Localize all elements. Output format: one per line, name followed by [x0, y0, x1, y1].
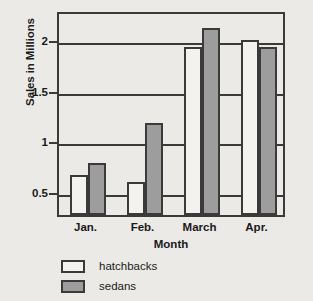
bar-sedans-march — [202, 28, 220, 215]
bar-hatchbacks-march — [184, 47, 202, 215]
y-tick-mark-1 — [49, 142, 57, 144]
bar-hatchbacks-jan — [70, 175, 88, 215]
y-tick-mark-0.5 — [49, 193, 57, 195]
y-tick-label-2: 2 — [8, 36, 48, 48]
legend-swatch-hatchbacks — [61, 260, 85, 273]
x-tick-label-jan: Jan. — [57, 221, 114, 233]
bar-sedans-feb — [145, 123, 163, 215]
y-axis-title: Sales in Millions — [24, 0, 36, 142]
legend-item-hatchbacks: hatchbacks — [61, 256, 157, 276]
x-tick-label-apr: Apr. — [228, 221, 285, 233]
chart-legend: hatchbackssedans — [61, 256, 157, 296]
bar-sedans-apr — [259, 47, 277, 215]
y-tick-label-1: 1 — [8, 137, 48, 149]
bar-sedans-jan — [88, 163, 106, 216]
x-tick-label-march: March — [171, 221, 228, 233]
legend-label-hatchbacks: hatchbacks — [99, 260, 157, 272]
bar-series-container — [59, 14, 283, 215]
x-tick-label-feb: Feb. — [114, 221, 171, 233]
x-axis-title: Month — [57, 238, 285, 250]
plot-area — [57, 12, 285, 217]
legend-item-sedans: sedans — [61, 276, 157, 296]
bar-chart: Sales in Millions 0.511.52 Jan.Feb.March… — [0, 0, 313, 301]
y-tick-mark-2 — [49, 41, 57, 43]
bar-hatchbacks-apr — [241, 40, 259, 215]
y-tick-label-0.5: 0.5 — [8, 188, 48, 200]
legend-label-sedans: sedans — [99, 280, 136, 292]
y-tick-label-1.5: 1.5 — [8, 87, 48, 99]
bar-hatchbacks-feb — [127, 182, 145, 215]
legend-swatch-sedans — [61, 280, 85, 293]
y-tick-mark-1.5 — [49, 92, 57, 94]
